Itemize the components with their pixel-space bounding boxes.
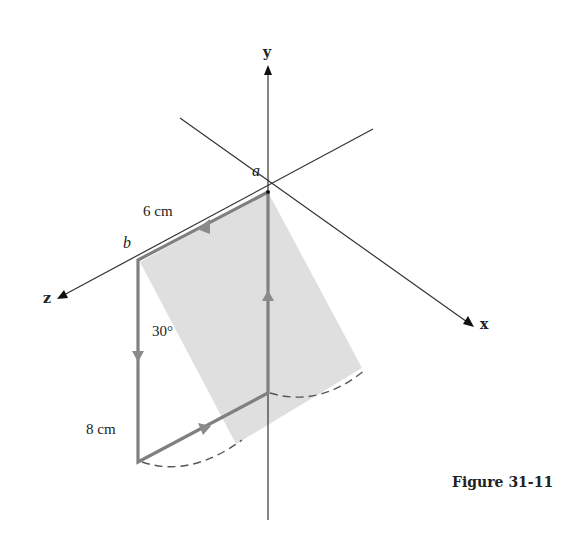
arrow-left-side-icon	[132, 351, 144, 362]
top-side-length: 6 cm	[143, 203, 173, 220]
left-side-length: 8 cm	[86, 421, 116, 438]
z-axis-label: z	[43, 290, 51, 306]
rotation-angle: 30°	[152, 323, 173, 340]
point-a-label: a	[252, 162, 260, 180]
z-axis-arrow-icon	[57, 290, 68, 299]
rotated-loop-plane	[140, 192, 362, 444]
point-b-label: b	[123, 234, 131, 252]
figure-caption: Figure 31-11	[452, 474, 553, 490]
x-axis-arrow-icon	[463, 316, 474, 327]
y-axis-arrow-icon	[264, 65, 272, 75]
y-axis-label: y	[263, 44, 271, 60]
diagram-canvas	[0, 0, 576, 533]
origin-point	[266, 190, 270, 194]
x-axis-label: x	[480, 316, 488, 332]
